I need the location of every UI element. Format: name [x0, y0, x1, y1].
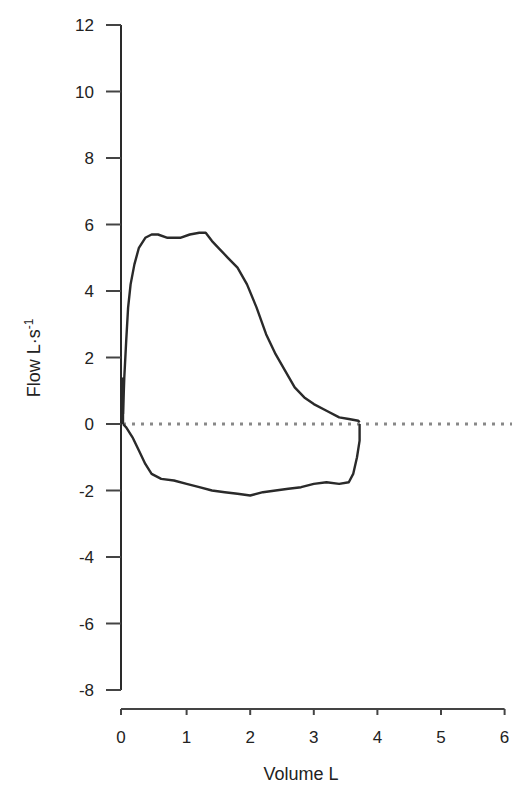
series-line-0 — [123, 233, 360, 422]
y-tick-label: 6 — [85, 216, 94, 235]
y-tick-label: -4 — [79, 548, 94, 567]
x-tick-label: 5 — [436, 728, 445, 747]
x-tick-label: 1 — [182, 728, 191, 747]
x-tick-label: 2 — [245, 728, 254, 747]
flow-volume-chart: 121086420-2-4-6-8 0123456 Volume L Flow … — [0, 0, 531, 790]
data-series — [123, 233, 360, 496]
series-line-1 — [123, 424, 360, 496]
x-axis: 0123456 — [116, 709, 509, 747]
y-tick-label: 8 — [85, 149, 94, 168]
x-tick-label: 3 — [309, 728, 318, 747]
x-tick-label: 6 — [500, 728, 509, 747]
x-axis-title: Volume L — [263, 764, 338, 784]
y-tick-label: -2 — [79, 482, 94, 501]
y-tick-label: -8 — [79, 681, 94, 700]
x-tick-label: 0 — [116, 728, 125, 747]
y-tick-label: 4 — [85, 282, 94, 301]
y-tick-label: 10 — [75, 83, 94, 102]
x-tick-label: 4 — [373, 728, 382, 747]
y-axis-title: Flow L·s-1 — [22, 318, 44, 397]
y-tick-label: -6 — [79, 615, 94, 634]
y-tick-label: 2 — [85, 349, 94, 368]
y-tick-label: 12 — [75, 16, 94, 35]
y-axis: 121086420-2-4-6-8 — [75, 16, 121, 700]
y-tick-label: 0 — [85, 415, 94, 434]
